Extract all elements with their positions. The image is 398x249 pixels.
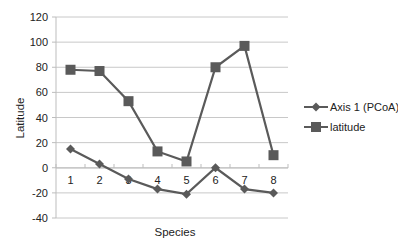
y-tick-label: 80 — [36, 61, 48, 73]
x-axis-title: Species — [155, 226, 196, 238]
y-tick-label: 60 — [36, 86, 48, 98]
square-marker — [153, 146, 163, 156]
y-axis-title: Latitude — [14, 98, 26, 139]
y-tick-label: 120 — [30, 11, 48, 23]
diamond-marker — [269, 188, 278, 197]
x-tick-label: 8 — [270, 174, 276, 186]
square-marker — [240, 41, 250, 51]
x-tick-label: 5 — [183, 174, 189, 186]
legend-label: latitude — [330, 121, 365, 133]
square-marker — [66, 65, 76, 75]
diamond-marker — [95, 159, 104, 168]
diamond-marker — [66, 144, 75, 153]
x-tick-label: 4 — [154, 174, 160, 186]
y-tick-label: 0 — [42, 162, 48, 174]
square-marker — [269, 150, 279, 160]
square-marker — [124, 96, 134, 106]
legend-item: latitude — [304, 121, 365, 133]
x-tick-label: 7 — [241, 174, 247, 186]
line-chart: -40-20020406080100120 12345678 Latitude … — [0, 0, 398, 249]
y-tick-label: 40 — [36, 112, 48, 124]
legend-item: Axis 1 (PCoA) — [304, 101, 398, 113]
y-tick-label: 100 — [30, 36, 48, 48]
legend-label: Axis 1 (PCoA) — [330, 101, 398, 113]
square-marker — [95, 66, 105, 76]
y-tick-label: 20 — [36, 137, 48, 149]
x-tick-label: 2 — [96, 174, 102, 186]
y-tick-label: -40 — [32, 212, 48, 224]
series-latitude — [66, 41, 279, 167]
square-marker — [211, 62, 221, 72]
legend: Axis 1 (PCoA)latitude — [304, 101, 398, 133]
series-axis-1-pcoa- — [66, 144, 278, 198]
gridlines — [52, 17, 288, 218]
y-axis-ticks: -40-20020406080100120 — [30, 11, 48, 224]
x-tick-label: 6 — [212, 174, 218, 186]
y-tick-label: -20 — [32, 187, 48, 199]
diamond-marker — [312, 103, 321, 112]
square-marker — [182, 156, 192, 166]
square-marker — [311, 122, 321, 132]
x-tick-label: 1 — [67, 174, 73, 186]
